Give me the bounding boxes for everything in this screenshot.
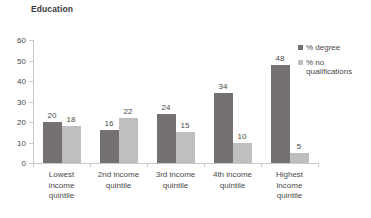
bar-value-label: 20 xyxy=(48,111,57,120)
y-axis-tick-label: 0 xyxy=(4,159,26,168)
y-axis-tick-label: 20 xyxy=(4,118,26,127)
chart-legend: % degree% no qualifications xyxy=(298,43,371,82)
category-label: Highest income quintile xyxy=(276,170,303,202)
y-axis-tick-label: 50 xyxy=(4,56,26,65)
x-axis-separator xyxy=(261,163,262,167)
category-label: 2nd income quintile xyxy=(98,170,139,191)
x-axis-separator xyxy=(147,163,148,167)
legend-label: % degree xyxy=(306,43,340,53)
bar xyxy=(214,93,233,163)
legend-item[interactable]: % no qualifications xyxy=(298,58,371,77)
bar xyxy=(62,126,81,163)
bar xyxy=(43,122,62,163)
bar xyxy=(176,132,195,163)
bar xyxy=(290,153,309,163)
bar-value-label: 24 xyxy=(162,103,171,112)
legend-label: % no qualifications xyxy=(306,58,371,77)
chart-title: Education xyxy=(31,4,73,14)
y-axis-tick-label: 40 xyxy=(4,77,26,86)
bar-value-label: 10 xyxy=(238,132,247,141)
legend-swatch-icon xyxy=(298,45,303,50)
x-axis-separator xyxy=(90,163,91,167)
bar xyxy=(233,143,252,164)
category-label: Lowest income quintile xyxy=(49,170,75,202)
bar-value-label: 16 xyxy=(105,119,114,128)
bar-value-label: 22 xyxy=(124,107,133,116)
category-label: 4th income quintile xyxy=(213,170,252,191)
legend-swatch-icon xyxy=(298,60,303,65)
x-axis-separator xyxy=(204,163,205,167)
bar-value-label: 48 xyxy=(276,54,285,63)
bar-value-label: 5 xyxy=(297,142,301,151)
x-axis-line xyxy=(33,163,318,164)
bar-value-label: 34 xyxy=(219,82,228,91)
y-axis-tick-label: 10 xyxy=(4,138,26,147)
bar xyxy=(119,118,138,163)
y-axis-tick-label: 30 xyxy=(4,97,26,106)
x-axis-separator xyxy=(318,163,319,167)
category-label: 3rd income quintile xyxy=(156,170,196,191)
y-axis-tick-label: 60 xyxy=(4,36,26,45)
bar xyxy=(157,114,176,163)
education-bar-chart: Education 0102030405060 2018162224153410… xyxy=(0,0,371,218)
legend-item[interactable]: % degree xyxy=(298,43,371,53)
bar xyxy=(271,65,290,163)
bar-value-label: 15 xyxy=(181,121,190,130)
bar xyxy=(100,130,119,163)
x-axis-separator xyxy=(33,163,34,167)
bar-value-label: 18 xyxy=(67,115,76,124)
